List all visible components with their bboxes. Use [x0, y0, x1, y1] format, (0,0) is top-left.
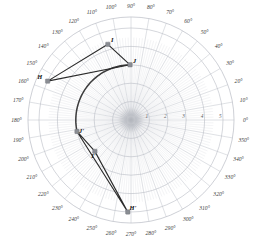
angle-tick-110: 110°	[87, 9, 98, 15]
vertex-marker-I	[106, 42, 110, 46]
angle-tick-200: 200°	[18, 156, 29, 162]
angle-tick-160: 160°	[18, 78, 29, 84]
angle-tick-220: 220°	[38, 191, 49, 197]
angle-tick-320: 320°	[212, 191, 224, 197]
angle-tick-130: 130°	[52, 29, 63, 35]
angle-tick-340: 340°	[232, 156, 244, 162]
angle-tick-170: 170°	[13, 97, 24, 103]
vertex-label-J: J	[132, 57, 137, 64]
angle-tick-10: 10°	[240, 97, 249, 103]
angle-tick-190: 190°	[13, 137, 24, 143]
angle-tick-270: 270°	[126, 231, 137, 237]
angle-tick-140: 140°	[38, 43, 49, 49]
triangle-HIJ	[48, 44, 130, 81]
angle-tick-350: 350°	[237, 137, 249, 143]
angle-tick-40: 40°	[215, 43, 224, 49]
vertex-label-I-prime: I'	[90, 152, 95, 159]
vertex-label-H: H	[36, 73, 43, 80]
angle-tick-300: 300°	[182, 216, 194, 222]
angle-tick-120: 120°	[68, 18, 79, 24]
angle-tick-180: 180°	[11, 117, 22, 123]
vertex-label-I: I	[110, 36, 114, 43]
angle-tick-290: 290°	[165, 225, 176, 231]
angle-tick-330: 330°	[224, 174, 236, 180]
vertex-marker-J	[128, 63, 132, 67]
vertex-label-J-prime: J'	[78, 127, 84, 134]
angle-tick-150: 150°	[27, 60, 38, 66]
radial-tick-3: 3	[182, 113, 185, 119]
polar-plot-canvas: 0°10°20°30°40°50°60°70°80°90°100°110°120…	[0, 0, 261, 241]
polar-grid-layer	[28, 17, 234, 223]
radial-tick-1: 1	[146, 113, 149, 119]
angle-tick-70: 70°	[166, 9, 175, 15]
radial-tick-4: 4	[201, 113, 204, 119]
angle-tick-250: 250°	[87, 225, 98, 231]
angle-tick-60: 60°	[184, 18, 193, 24]
angle-tick-90: 90°	[127, 3, 136, 9]
vertex-marker-H	[45, 79, 49, 83]
angle-tick-230: 230°	[52, 205, 63, 211]
angle-tick-30: 30°	[225, 60, 235, 66]
angle-tick-240: 240°	[68, 216, 79, 222]
angle-tick-50: 50°	[201, 29, 210, 35]
vertex-label-H-prime: H'	[128, 204, 136, 211]
angle-tick-80: 80°	[147, 4, 156, 10]
angle-tick-0: 0°	[243, 117, 249, 123]
angle-tick-100: 100°	[106, 4, 117, 10]
angle-tick-310: 310°	[198, 205, 210, 211]
radial-tick-5: 5	[219, 113, 222, 119]
angle-tick-260: 260°	[106, 230, 117, 236]
center-hub	[118, 107, 144, 133]
angle-tick-210: 210°	[27, 174, 38, 180]
polar-chart-figure: 0°10°20°30°40°50°60°70°80°90°100°110°120…	[0, 0, 261, 241]
radial-tick-2: 2	[164, 113, 167, 119]
angle-tick-280: 280°	[146, 230, 157, 236]
angle-tick-20: 20°	[235, 78, 244, 84]
